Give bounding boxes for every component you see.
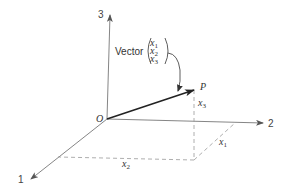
axis-2-label: 2 [268, 118, 274, 129]
vector-caption: Vector [115, 46, 144, 57]
axis-2-line [107, 119, 263, 123]
axis-3-label: 3 [98, 9, 104, 20]
vector-3d-diagram: 3 2 1 O P x3 x1 x2 Vector x1 x2 x3 [0, 0, 290, 193]
origin-label: O [96, 113, 103, 124]
x2-label: x2 [121, 158, 130, 171]
matrix-right-paren [165, 38, 168, 64]
axis-1-label: 1 [18, 174, 24, 185]
x1-label: x1 [218, 136, 227, 149]
point-p-label: P [199, 81, 206, 92]
callout-arrow [168, 53, 180, 91]
axis-3-line [107, 15, 110, 119]
vector-op [107, 90, 194, 119]
x3-label: x3 [197, 97, 206, 110]
axis-1-line [31, 119, 107, 179]
projection-x1-dashed [194, 123, 235, 160]
